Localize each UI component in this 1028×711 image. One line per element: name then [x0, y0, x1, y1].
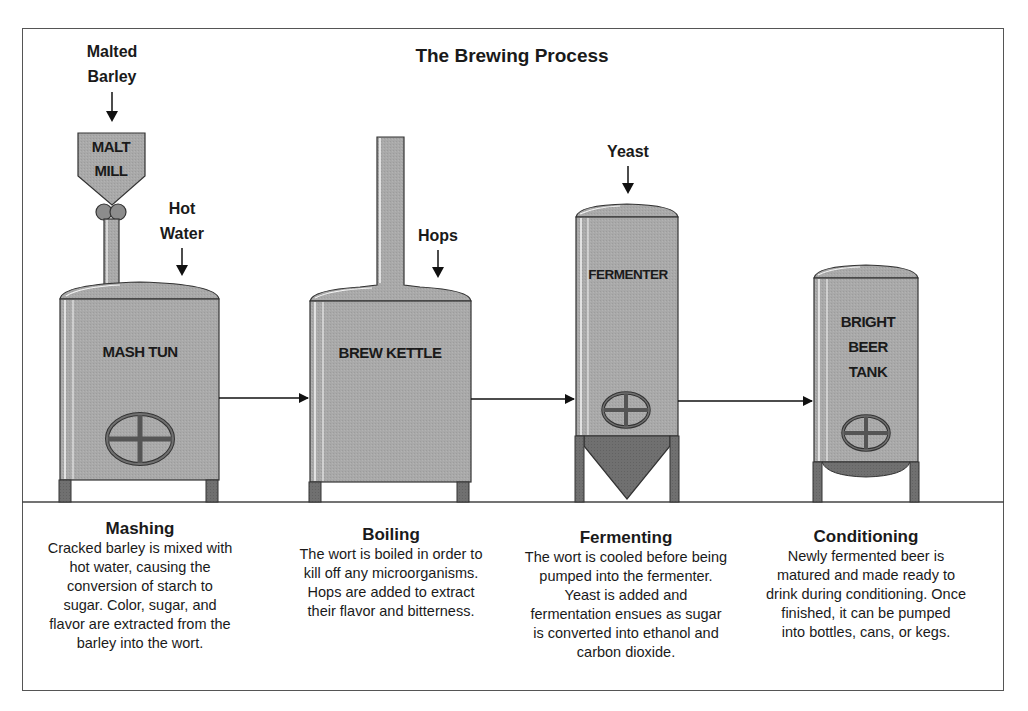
step-text: Cracked barley is mixed with hot water, …	[22, 539, 258, 653]
arrow-down-icon	[106, 111, 118, 122]
svg-text:Hot: Hot	[169, 200, 196, 217]
tank-leg	[457, 482, 469, 502]
malted-barley-input: Malted Barley	[87, 43, 138, 122]
step-heading: Boiling	[276, 525, 506, 545]
bright-beer-tank: BRIGHT BEER TANK	[813, 265, 919, 502]
hops-input: Hops	[418, 227, 458, 278]
tank-bottom	[822, 462, 910, 477]
tank-leg	[910, 462, 919, 502]
arrow-down-icon	[622, 183, 634, 194]
arrow-down-icon	[432, 267, 444, 278]
step-boiling: Boiling The wort is boiled in order to k…	[276, 525, 506, 621]
step-heading: Fermenting	[503, 528, 749, 548]
step-heading: Mashing	[22, 519, 258, 539]
svg-text:TANK: TANK	[849, 363, 888, 380]
svg-text:Hops: Hops	[418, 227, 458, 244]
svg-text:MASH TUN: MASH TUN	[102, 343, 177, 360]
svg-text:BRIGHT: BRIGHT	[841, 313, 896, 330]
step-text: The wort is cooled before being pumped i…	[503, 548, 749, 662]
step-conditioning: Conditioning Newly fermented beer is mat…	[741, 527, 991, 642]
fermenter: FERMENTER	[575, 204, 679, 502]
tank-leg	[59, 480, 71, 502]
yeast-input: Yeast	[607, 143, 649, 194]
step-fermenting: Fermenting The wort is cooled before bei…	[503, 528, 749, 662]
svg-text:MALT: MALT	[92, 138, 131, 155]
tank-leg	[670, 436, 679, 502]
svg-text:BEER: BEER	[848, 338, 888, 355]
conical-bottom	[584, 436, 670, 499]
tank-leg	[575, 436, 584, 502]
step-text: The wort is boiled in order to kill off …	[276, 545, 506, 621]
diagram-title: The Brewing Process	[415, 45, 608, 66]
valve-wheel-icon	[603, 393, 649, 427]
valve-wheel-icon	[107, 414, 173, 464]
brew-kettle: BREW KETTLE	[309, 137, 471, 502]
svg-text:Malted: Malted	[87, 43, 138, 60]
valve-wheel-icon	[843, 416, 889, 450]
step-heading: Conditioning	[741, 527, 991, 547]
svg-text:FERMENTER: FERMENTER	[588, 267, 668, 282]
step-mashing: Mashing Cracked barley is mixed with hot…	[22, 519, 258, 653]
arrow-down-icon	[176, 265, 188, 276]
step-text: Newly fermented beer is matured and made…	[741, 547, 991, 642]
svg-text:MILL: MILL	[95, 162, 128, 179]
mash-tun: MASH TUN	[59, 282, 219, 502]
svg-text:Yeast: Yeast	[607, 143, 649, 160]
tank-leg	[813, 462, 822, 502]
tank-leg	[206, 480, 218, 502]
mill-roller-icon	[110, 204, 126, 220]
svg-text:Water: Water	[160, 225, 204, 242]
svg-text:Barley: Barley	[88, 68, 137, 85]
malt-mill: MALT MILL	[78, 133, 145, 285]
svg-text:BREW KETTLE: BREW KETTLE	[339, 344, 442, 361]
tank-leg	[309, 482, 321, 502]
hot-water-input: Hot Water	[160, 200, 204, 276]
